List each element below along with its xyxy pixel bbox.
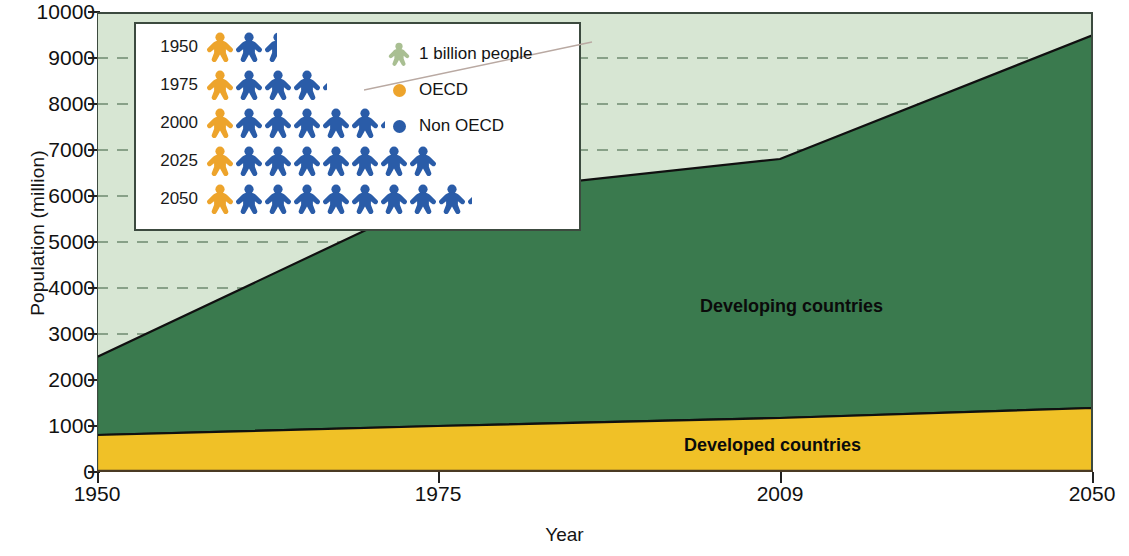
area-label-developing: Developing countries [700, 296, 883, 317]
person-icon [206, 146, 234, 176]
person-icon [322, 184, 350, 214]
person-icon [322, 108, 350, 138]
person-icon [264, 108, 292, 138]
person-icon [206, 70, 234, 100]
dot-icon [386, 120, 412, 133]
person-icon [322, 70, 327, 100]
legend-label-non-oecd: Non OECD [419, 116, 504, 136]
pictogram-figures [206, 106, 386, 140]
person-icon [235, 184, 263, 214]
pictogram-row-2050: 2050 [142, 182, 473, 216]
person-icon [206, 108, 234, 138]
person-icon [264, 70, 292, 100]
legend-label-unit: 1 billion people [419, 44, 532, 64]
pictogram-row-year: 1950 [142, 37, 198, 57]
person-icon [293, 146, 321, 176]
person-icon [467, 184, 472, 214]
person-icon [351, 184, 379, 214]
pictogram-row-year: 2025 [142, 151, 198, 171]
pictogram-row-2025: 2025 [142, 144, 438, 178]
person-icon [438, 184, 466, 214]
person-icon [293, 108, 321, 138]
person-icon [351, 108, 379, 138]
pictogram-figures [206, 182, 473, 216]
inset-legend: 1 billion people OECD Non OECD [386, 36, 576, 144]
person-icon [235, 70, 263, 100]
person-icon [235, 146, 263, 176]
legend-item-non-oecd: Non OECD [386, 108, 576, 144]
x-axis-title: Year [0, 524, 1129, 546]
pictogram-figures [206, 144, 438, 178]
pictogram-figures [206, 30, 278, 64]
pictogram-row-year: 2050 [142, 189, 198, 209]
legend-label-oecd: OECD [419, 80, 468, 100]
person-icon [293, 70, 321, 100]
person-icon [409, 184, 437, 214]
x-tick-label-1975: 1975 [415, 482, 462, 506]
pictogram-row-1975: 1975 [142, 68, 328, 102]
x-tick-label-1950: 1950 [74, 482, 121, 506]
person-icon [264, 146, 292, 176]
person-icon [235, 108, 263, 138]
x-tick-label-2009: 2009 [757, 482, 804, 506]
person-icon [206, 184, 234, 214]
pictogram-row-1950: 1950 [142, 30, 278, 64]
person-icon [206, 32, 234, 62]
person-icon [409, 146, 437, 176]
pictogram-row-year: 1975 [142, 75, 198, 95]
area-label-developed: Developed countries [684, 435, 861, 456]
pictogram-figures [206, 68, 328, 102]
y-tick-label-10000: 10000 [37, 0, 95, 24]
person-icon [322, 146, 350, 176]
chart-root: Population (million) Year 10000 9000 800… [0, 0, 1129, 556]
inset-pictogram-panel: 1950 1975 2000 2025 2050 1 billion peopl… [134, 22, 581, 231]
person-icon [380, 146, 408, 176]
dot-icon [386, 84, 412, 97]
person-icon [264, 184, 292, 214]
person-icon [264, 32, 277, 62]
person-icon [235, 32, 263, 62]
person-icon [380, 108, 385, 138]
y-axis-title: Population (million) [27, 103, 49, 363]
pictogram-row-2000: 2000 [142, 106, 386, 140]
x-tick-label-2050: 2050 [1069, 482, 1116, 506]
person-icon [386, 42, 412, 66]
legend-item-unit: 1 billion people [386, 36, 576, 72]
pictogram-row-year: 2000 [142, 113, 198, 133]
person-icon [380, 184, 408, 214]
person-icon [351, 146, 379, 176]
person-icon [293, 184, 321, 214]
legend-item-oecd: OECD [386, 72, 576, 108]
